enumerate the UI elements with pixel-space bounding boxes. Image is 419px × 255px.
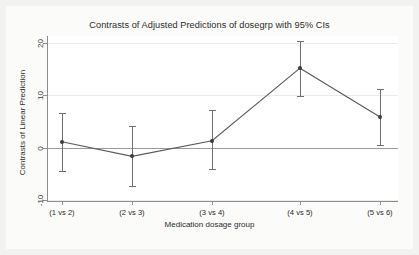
y-axis-title: Contrasts of Linear Prediction (18, 58, 27, 188)
data-point-marker (130, 154, 134, 158)
ci-cap-upper (59, 113, 66, 114)
ci-cap-lower (297, 96, 304, 97)
ci-cap-upper (209, 110, 216, 111)
data-point-marker (60, 140, 64, 144)
data-point-marker (210, 139, 214, 143)
chart-title: Contrasts of Adjusted Predictions of dos… (0, 20, 419, 30)
ci-cap-lower (59, 171, 66, 172)
data-point-marker (378, 115, 382, 119)
x-tick-mark-1 (62, 201, 63, 205)
ci-cap-upper (129, 126, 136, 127)
y-axis-line (47, 36, 48, 202)
ci-cap-lower (209, 169, 216, 170)
x-axis-line (47, 201, 398, 202)
zero-reference-line (48, 148, 398, 149)
y-tick-label-10: 10 (36, 84, 45, 108)
x-tick-label-3: (3 vs 4) (199, 208, 224, 217)
data-point-marker (298, 66, 302, 70)
y-tick-label-neg10: -10 (36, 189, 45, 213)
x-axis-title: Medication dosage group (0, 220, 419, 229)
y-tick-label-20: 20 (36, 32, 45, 56)
x-tick-label-4: (4 vs 5) (287, 208, 312, 217)
plot-area (48, 36, 398, 200)
ci-cap-upper (377, 89, 384, 90)
x-tick-label-1: (1 vs 2) (49, 208, 74, 217)
x-tick-mark-5 (380, 201, 381, 205)
y-tick-label-0: 0 (36, 137, 45, 161)
figure-container: Contrasts of Adjusted Predictions of dos… (0, 0, 419, 255)
ci-cap-upper (297, 41, 304, 42)
gridline-10 (48, 95, 398, 96)
ci-cap-lower (129, 186, 136, 187)
x-tick-label-2: (2 vs 3) (119, 208, 144, 217)
ci-cap-lower (377, 145, 384, 146)
x-tick-mark-2 (132, 201, 133, 205)
x-tick-mark-3 (212, 201, 213, 205)
gridline-20 (48, 43, 398, 44)
x-tick-label-5: (5 vs 6) (367, 208, 392, 217)
x-tick-mark-4 (300, 201, 301, 205)
